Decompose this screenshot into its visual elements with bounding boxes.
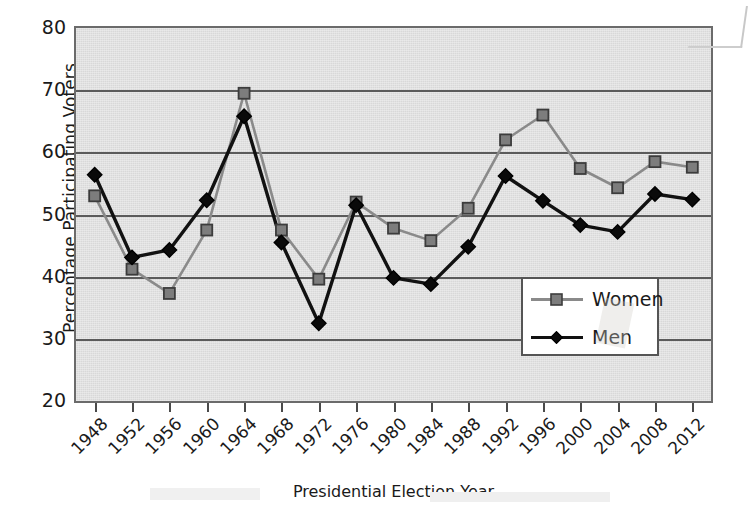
diamond-marker-icon bbox=[550, 331, 563, 344]
x-axis-tick-labels: 1948195219561960196419681972197619801984… bbox=[0, 0, 751, 509]
legend-item-men: Men bbox=[523, 323, 657, 351]
x-axis-title: Presidential Election Year bbox=[74, 482, 713, 501]
legend: Women Men bbox=[521, 277, 659, 356]
legend-item-women: Women bbox=[523, 285, 657, 313]
line-chart: Percentage Participating Voters 80706050… bbox=[0, 0, 751, 509]
legend-label-women: Women bbox=[592, 288, 664, 310]
legend-swatch-women bbox=[531, 289, 583, 309]
legend-swatch-men bbox=[531, 327, 583, 347]
square-marker-icon bbox=[550, 293, 563, 306]
legend-label-men: Men bbox=[592, 326, 632, 348]
